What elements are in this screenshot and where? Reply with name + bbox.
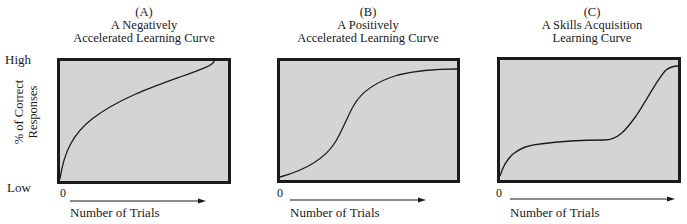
- panel-a-curve: [60, 61, 228, 181]
- panel-a-x-arrow: [70, 197, 206, 205]
- y-axis-title-line1: % of Correct: [12, 52, 26, 172]
- panel-a-x-label: Number of Trials: [70, 205, 160, 221]
- panel-a-origin-label: 0: [60, 186, 66, 201]
- panel-b-title: (B) A Positively Accelerated Learning Cu…: [268, 6, 468, 45]
- panel-c-origin-label: 0: [496, 186, 502, 201]
- panel-b-x-label: Number of Trials: [290, 205, 380, 221]
- panel-b-x-arrow: [290, 196, 426, 204]
- panel-c-x-arrow: [510, 195, 675, 203]
- panel-a-title: (A) A Negatively Accelerated Learning Cu…: [44, 6, 244, 45]
- panel-c-title-line2: Learning Curve: [492, 32, 687, 45]
- panel-b-origin-label: 0: [277, 186, 283, 201]
- panel-b-plot-area: [277, 58, 460, 183]
- panel-b-curve: [280, 61, 457, 180]
- y-axis-title: % of Correct Responses: [12, 52, 40, 172]
- y-low-label: Low: [7, 180, 31, 196]
- panel-a-title-line2: Accelerated Learning Curve: [44, 32, 244, 45]
- y-axis-title-line2: Responses: [26, 52, 40, 172]
- panel-a-plot-area: [57, 58, 231, 184]
- panel-c-plot-area: [497, 57, 681, 183]
- panel-c-x-label: Number of Trials: [510, 205, 600, 221]
- panel-c-title: (C) A Skills Acquisition Learning Curve: [492, 6, 687, 45]
- panel-b-title-line2: Accelerated Learning Curve: [268, 32, 468, 45]
- panel-c-curve: [500, 60, 678, 180]
